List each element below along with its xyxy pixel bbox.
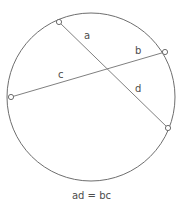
chord-segment-label-a: a bbox=[84, 31, 90, 41]
geometry-figure: a b c d ad = bc bbox=[0, 0, 183, 213]
chord-a-d-line bbox=[59, 22, 168, 128]
geometry-canvas bbox=[0, 0, 183, 213]
figure-caption: ad = bc bbox=[0, 190, 183, 202]
chord-segment-label-d: d bbox=[135, 84, 141, 94]
chord-c-b-line bbox=[11, 52, 165, 97]
endpoint-marker-top-left bbox=[56, 19, 61, 24]
endpoint-marker-left bbox=[8, 94, 13, 99]
chord-segment-label-c: c bbox=[58, 70, 64, 80]
chord-segment-label-b: b bbox=[135, 46, 141, 56]
endpoint-marker-bottom-right bbox=[165, 125, 170, 130]
endpoint-marker-right bbox=[162, 49, 167, 54]
circle-outline bbox=[7, 13, 175, 181]
